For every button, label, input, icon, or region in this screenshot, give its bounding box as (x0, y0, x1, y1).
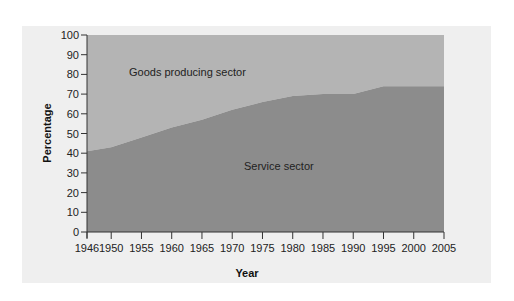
y-tick-label: 50 (67, 128, 79, 140)
x-tick-label: 1990 (341, 242, 365, 254)
service-sector-label: Service sector (244, 160, 314, 172)
y-tick-label: 30 (67, 167, 79, 179)
y-tick-label: 90 (67, 49, 79, 61)
x-tick-label: 2005 (432, 242, 456, 254)
x-tick-label: 2000 (402, 242, 426, 254)
y-tick-label: 80 (67, 68, 79, 80)
x-tick-label: 1970 (220, 242, 244, 254)
y-tick-label: 0 (73, 226, 79, 238)
x-tick-label: 1955 (129, 242, 153, 254)
y-tick-label: 10 (67, 206, 79, 218)
y-tick-label: 100 (61, 29, 79, 41)
x-tick-label: 1965 (190, 242, 214, 254)
x-tick-label: 1985 (311, 242, 335, 254)
y-tick-label: 70 (67, 88, 79, 100)
x-tick-label: 1995 (371, 242, 395, 254)
y-tick-label: 40 (67, 147, 79, 159)
y-axis-title: Percentage (41, 103, 53, 162)
x-tick-label: 1975 (250, 242, 274, 254)
x-tick-label: 1946 (75, 242, 99, 254)
x-tick-label: 1950 (99, 242, 123, 254)
goods-sector-label: Goods producing sector (129, 66, 246, 78)
y-tick-label: 20 (67, 187, 79, 199)
x-tick-label: 1980 (280, 242, 304, 254)
x-axis-title: Year (235, 267, 259, 279)
y-tick-label: 60 (67, 108, 79, 120)
x-tick-label: 1960 (159, 242, 183, 254)
area-chart: 0102030405060708090100194619501955196019… (0, 0, 514, 301)
